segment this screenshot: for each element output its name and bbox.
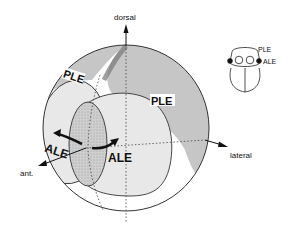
inset-ale-label: ALE [263, 58, 277, 65]
lateral-axis-label: lateral [230, 151, 252, 160]
dorsal-axis-label: dorsal [114, 13, 136, 22]
ale-right-label: ALE [108, 151, 132, 165]
ple-right-label: PLE [151, 95, 172, 107]
anterior-axis-label: ant. [20, 169, 33, 178]
inset-ple-label: PLE [258, 46, 272, 53]
visual-field-diagram: dorsal lateral ant. PLE PLE ALE ALE PLE … [0, 0, 291, 225]
spider-head-inset [228, 48, 262, 93]
